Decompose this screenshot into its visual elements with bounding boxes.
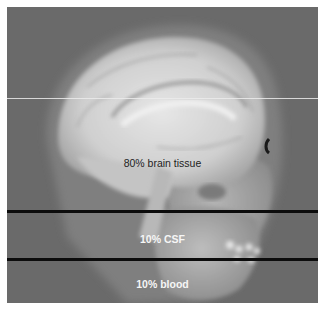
- scan-artifact-line: [7, 98, 318, 99]
- blood-label: 10% blood: [7, 278, 318, 290]
- divider-csf-blood: [7, 258, 318, 261]
- head-scan-figure: 80% brain tissue 10% CSF 10% blood: [7, 7, 318, 303]
- csf-label: 10% CSF: [7, 233, 318, 245]
- divider-brain-csf: [7, 210, 318, 213]
- brain-tissue-label: 80% brain tissue: [7, 157, 318, 169]
